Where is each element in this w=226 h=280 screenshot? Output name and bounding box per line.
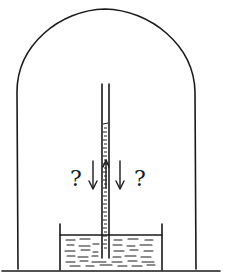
liquid (65, 239, 155, 266)
diagram-canvas: ? ? (0, 0, 226, 280)
liquid-dish (60, 224, 162, 270)
right-question-mark: ? (134, 166, 146, 191)
left-question-mark: ? (70, 166, 82, 191)
bell-jar (17, 9, 196, 269)
down-arrow-left (89, 161, 97, 189)
down-arrow-right (116, 161, 124, 189)
up-arrow-tube (103, 160, 109, 188)
